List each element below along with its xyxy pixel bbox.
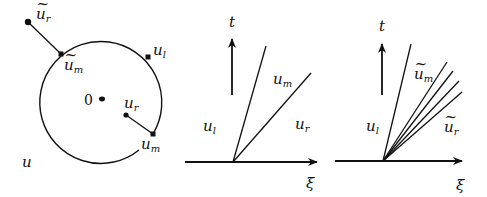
segment-ur-um <box>126 115 153 134</box>
origin-label: 0 <box>84 92 93 108</box>
region-left-label: ul <box>366 117 379 136</box>
region-right-label: ur <box>295 115 311 134</box>
state-space-label: u <box>22 153 32 171</box>
tilde-middle: ~ <box>415 55 428 73</box>
point-ur <box>123 112 128 117</box>
tilde-ur: ~ <box>37 0 50 13</box>
label-ur: ur <box>124 94 140 113</box>
tilde-um: ~ <box>65 46 78 64</box>
point-um-tilde <box>59 52 64 57</box>
origin-point <box>99 97 105 102</box>
point-ul <box>146 55 151 60</box>
rarefaction-fan-panel: t ξ ul um ~ ur ~ <box>335 17 465 194</box>
wave-left <box>233 46 266 162</box>
t-label: t <box>379 17 386 35</box>
shock-wave-panel: t ξ ul um ur <box>185 13 317 192</box>
diagram-svg: ur ~ um ~ ul ur um 0 u t ξ ul um ur t ξ … <box>0 0 487 197</box>
tilde-right: ~ <box>445 108 458 126</box>
riemann-diagram: ur ~ um ~ ul ur um 0 u t ξ ul um ur t ξ … <box>0 0 487 197</box>
point-um <box>151 132 156 137</box>
label-ul: ul <box>153 41 166 60</box>
xi-label: ξ <box>306 174 315 192</box>
phase-plane-panel: ur ~ um ~ ul ur um 0 u <box>22 0 166 171</box>
t-label: t <box>229 13 236 31</box>
xi-label: ξ <box>456 176 465 194</box>
point-ur-tilde <box>25 19 31 25</box>
region-left-label: ul <box>203 117 216 136</box>
label-um: um <box>141 135 160 154</box>
segment-ur-tilde-um-tilde <box>28 22 61 54</box>
region-middle-label: um <box>273 70 292 89</box>
